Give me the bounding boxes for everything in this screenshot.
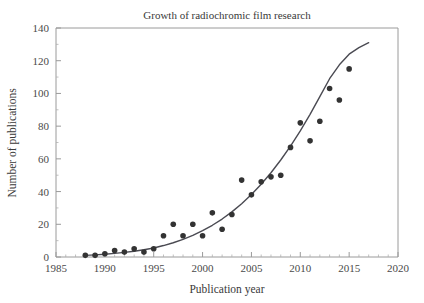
- x-tick-label: 1995: [143, 262, 166, 274]
- data-point: [327, 86, 333, 92]
- x-tick-label: 2000: [192, 262, 215, 274]
- chart-figure: Growth of radiochromic film research 198…: [0, 0, 424, 303]
- data-point: [190, 221, 196, 227]
- chart-background: [0, 0, 424, 303]
- data-point: [249, 192, 255, 198]
- data-point: [161, 233, 167, 239]
- chart-title: Growth of radiochromic film research: [143, 9, 311, 21]
- y-tick-label: 140: [33, 22, 50, 34]
- data-point: [229, 212, 235, 218]
- data-point: [122, 249, 128, 255]
- data-point: [92, 253, 98, 259]
- x-tick-label: 2015: [338, 262, 361, 274]
- x-tick-label: 2010: [289, 262, 312, 274]
- data-point: [200, 233, 206, 239]
- data-point: [307, 138, 313, 144]
- y-tick-label: 60: [38, 153, 50, 165]
- y-tick-label: 0: [44, 251, 50, 263]
- data-point: [131, 246, 137, 252]
- data-point: [180, 233, 186, 239]
- x-tick-label: 2005: [240, 262, 263, 274]
- x-tick-label: 1985: [45, 262, 68, 274]
- data-point: [258, 179, 264, 185]
- x-tick-label: 1990: [94, 262, 117, 274]
- data-point: [83, 253, 89, 259]
- data-point: [102, 251, 108, 257]
- data-point: [141, 249, 147, 255]
- data-point: [268, 174, 274, 180]
- data-point: [112, 248, 118, 254]
- y-tick-label: 120: [33, 55, 50, 67]
- data-point: [317, 118, 323, 124]
- x-tick-label: 2020: [387, 262, 410, 274]
- data-point: [297, 120, 303, 126]
- data-point: [337, 97, 343, 103]
- publications-growth-chart: Growth of radiochromic film research 198…: [0, 0, 424, 303]
- data-point: [151, 246, 157, 252]
- y-axis-title: Number of publications: [6, 88, 19, 198]
- y-tick-label: 100: [33, 87, 50, 99]
- y-tick-label: 20: [38, 218, 50, 230]
- data-point: [210, 210, 216, 216]
- x-axis-title: Publication year: [189, 283, 264, 296]
- data-point: [278, 172, 284, 178]
- data-point: [346, 66, 352, 72]
- data-point: [219, 226, 225, 232]
- data-point: [239, 177, 245, 183]
- data-point: [170, 221, 176, 227]
- y-tick-label: 40: [38, 186, 50, 198]
- y-tick-label: 80: [38, 120, 50, 132]
- data-point: [288, 145, 294, 151]
